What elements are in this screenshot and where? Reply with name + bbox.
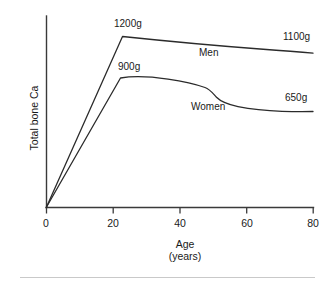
- x-axis-title-line2: (years): [130, 250, 240, 262]
- x-axis-title-line1: Age: [176, 238, 195, 250]
- series-line-women: [47, 77, 314, 207]
- annotation-men-peak-value: 1200g: [114, 18, 142, 29]
- x-tick-label-20: 20: [99, 218, 127, 229]
- annotation-men-end-value: 1100g: [283, 31, 310, 42]
- series-line-men: [47, 37, 314, 208]
- y-axis-title: Total bone Ca: [28, 63, 40, 173]
- x-tick-label-60: 60: [233, 218, 261, 229]
- x-tick-label-80: 80: [299, 218, 327, 229]
- annotation-men-series-name: Men: [199, 47, 218, 58]
- x-tick-label-40: 40: [166, 218, 194, 229]
- annotation-women-end-value: 650g: [285, 92, 307, 103]
- bone-calcium-chart: Total bone Ca Age (years) 0 20 40 60 80 …: [0, 0, 330, 288]
- annotation-women-series-name: Women: [191, 101, 225, 112]
- x-axis-title: Age (years): [130, 238, 240, 262]
- annotation-women-peak-value: 900g: [118, 61, 140, 72]
- x-tick-label-0: 0: [32, 218, 60, 229]
